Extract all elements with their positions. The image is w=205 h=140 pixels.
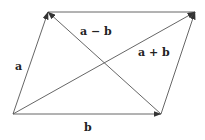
label-a: a [15,60,22,73]
label-a-plus-b: a + b [138,46,170,59]
label-b: b [84,121,92,134]
label-a-minus-b: a − b [80,25,112,38]
vector-a-translated-arrow [161,12,195,114]
vector-parallelogram-diagram: a − b a + b a b [0,0,205,140]
